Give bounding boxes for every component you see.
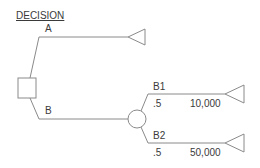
- branch-a-line: [30, 37, 128, 78]
- decision-square: [18, 78, 36, 98]
- decision-tree-diagram: [0, 0, 260, 168]
- outcome-b2-label: B2: [153, 131, 165, 141]
- outcome-b1-probability: .5: [153, 99, 161, 109]
- diagram-title: DECISION: [16, 11, 64, 21]
- outcome-b2-payoff: 50,000: [190, 148, 221, 158]
- outcome-b1-label: B1: [153, 82, 165, 92]
- end-triangle-b1: [225, 85, 244, 103]
- outcome-b1-payoff: 10,000: [190, 99, 221, 109]
- end-triangle-a: [128, 29, 145, 45]
- outcome-b2-probability: .5: [153, 148, 161, 158]
- branch-b-label: B: [45, 106, 52, 116]
- end-triangle-b2: [225, 134, 244, 152]
- branch-a-label: A: [45, 24, 52, 34]
- chance-circle: [128, 110, 146, 128]
